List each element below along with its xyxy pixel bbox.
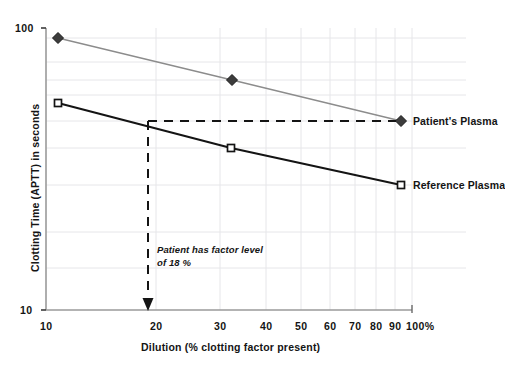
- x-axis-title: Dilution (% clotting factor present): [141, 341, 320, 353]
- series-reference-plasma: [55, 100, 405, 189]
- readout-arrow-icon: [143, 298, 154, 311]
- annotation-note-line2: of 18 %: [157, 256, 191, 269]
- x-tick-label-50: 50: [295, 320, 307, 332]
- x-tick-label-60: 60: [324, 320, 336, 332]
- y-axis-title: Clotting Time (APTT) in seconds: [29, 104, 41, 272]
- legend-label-reference-plasma: Reference Plasma: [413, 179, 505, 191]
- x-tick-label-20: 20: [150, 320, 162, 332]
- x-tick-label-100: 100%: [406, 320, 434, 332]
- x-tick-label-80: 80: [370, 320, 382, 332]
- x-tick-label-90: 90: [389, 320, 401, 332]
- annotation-note-line1: Patient has factor level: [157, 243, 263, 256]
- x-tick-label-30: 30: [214, 320, 226, 332]
- legend-label-patients-plasma: Patient's Plasma: [413, 115, 498, 127]
- y-tick-label-10: 10: [20, 304, 32, 316]
- axis-lines: [41, 28, 412, 313]
- y-tick-label-100: 100: [15, 22, 34, 34]
- x-tick-label-10: 10: [40, 320, 52, 332]
- x-tick-label-40: 40: [260, 320, 272, 332]
- readout-vertical-dashed-line: [143, 121, 154, 311]
- x-tick-label-70: 70: [349, 320, 361, 332]
